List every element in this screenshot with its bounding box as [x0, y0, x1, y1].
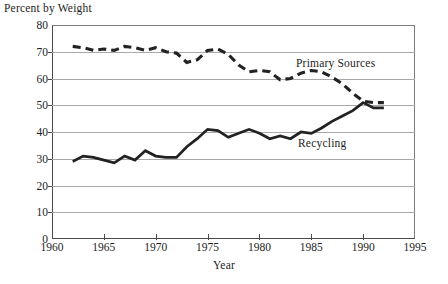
- x-tick-label-1970: 1970: [130, 241, 182, 253]
- x-tick-label-1965: 1965: [78, 241, 130, 253]
- series-annotation-primary-sources: Primary Sources: [296, 57, 375, 69]
- y-tick-label-20: 20: [8, 180, 48, 192]
- y-tick-label-80: 80: [8, 19, 48, 31]
- y-tick-label-30: 30: [8, 153, 48, 165]
- y-tick-label-70: 70: [8, 46, 48, 58]
- x-axis-title: Year: [0, 259, 448, 271]
- y-tick-label-50: 50: [8, 99, 48, 111]
- y-tick-label-40: 40: [8, 126, 48, 138]
- x-tick-label-1985: 1985: [285, 241, 337, 253]
- series-annotation-recycling: Recycling: [298, 137, 346, 149]
- y-tick-label-60: 60: [8, 73, 48, 85]
- y-tick-label-10: 10: [8, 206, 48, 218]
- x-tick-label-1995: 1995: [389, 241, 441, 253]
- series-line-recycling: [73, 103, 384, 163]
- x-tick-label-1960: 1960: [26, 241, 78, 253]
- line-chart: Percent by Weight 80 70 60 50 40 30 20 1…: [0, 0, 448, 284]
- x-tick-label-1975: 1975: [182, 241, 234, 253]
- y-axis-title: Percent by Weight: [4, 2, 92, 14]
- series-line-primary-sources: [73, 46, 384, 102]
- x-tick-label-1990: 1990: [337, 241, 389, 253]
- x-tick-label-1980: 1980: [233, 241, 285, 253]
